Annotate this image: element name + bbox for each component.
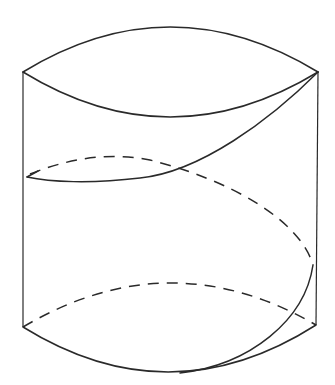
top-ellipse-back [23,27,318,72]
right-edge [316,72,318,325]
helix-front-lower [180,265,313,373]
top-ellipse-front [23,72,318,117]
bottom-ellipse-back [23,283,316,327]
bottom-ellipse-front [23,325,316,372]
helix-back [30,156,313,265]
helix-front-upper [27,72,318,182]
cylinder-helix-diagram [0,0,335,385]
